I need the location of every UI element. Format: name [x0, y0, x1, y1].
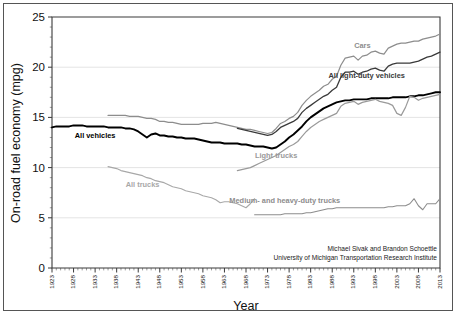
x-tick-label-1998: 1998: [371, 274, 378, 288]
axis-lines: [52, 17, 440, 268]
annotation-light-trucks: Light trucks: [255, 151, 297, 160]
x-tick-label-1928: 1928: [69, 274, 76, 288]
attribution-note: Michael Sivak and Brandon SchoettleUnive…: [274, 245, 438, 262]
x-tick-label-1963: 1963: [220, 274, 227, 288]
y-tick-label-0: 0: [39, 262, 45, 274]
x-tick-label-1973: 1973: [263, 274, 270, 288]
annotation-all-trucks: All trucks: [126, 180, 160, 189]
fuel-economy-line-chart: 0510152025 19231928193319381943194819531…: [0, 0, 456, 320]
x-tick-label-1953: 1953: [177, 274, 184, 288]
y-tick-label-20: 20: [32, 61, 45, 73]
x-tick-label-1968: 1968: [242, 274, 249, 288]
x-tick-label-2003: 2003: [393, 274, 400, 288]
x-tick-label-1958: 1958: [199, 274, 206, 288]
annotation-medium-and-heavy-duty-trucks: Medium- and heavy-duty trucks: [229, 196, 340, 205]
attribution-line-1: Michael Sivak and Brandon Schoettle: [327, 245, 437, 252]
y-axis-tick-labels: 0510152025: [32, 11, 45, 274]
x-axis-tick-labels: 1923192819331938194319481953195819631968…: [48, 274, 443, 288]
annotation-cars: Cars: [354, 41, 370, 50]
x-tick-label-1988: 1988: [328, 274, 335, 288]
annotation-all-light-duty-vehicles: All light-duty vehicles: [329, 71, 405, 80]
x-tick-label-1923: 1923: [48, 274, 55, 288]
y-tick-label-25: 25: [32, 11, 45, 23]
x-tick-label-2013: 2013: [436, 274, 443, 288]
y-tick-label-5: 5: [39, 212, 45, 224]
y-axis-title: On-road fuel economy (mpg): [9, 63, 23, 223]
series-line-cars: [108, 34, 440, 133]
series-line-all-light-duty-vehicles: [237, 52, 440, 135]
x-tick-label-1978: 1978: [285, 274, 292, 288]
x-tick-label-1948: 1948: [155, 274, 162, 288]
x-axis-title: Year: [233, 299, 258, 313]
x-tick-label-1993: 1993: [349, 274, 356, 288]
chart-figure: 0510152025 19231928193319381943194819531…: [0, 0, 456, 320]
data-series-lines: [52, 34, 440, 215]
x-tick-label-1933: 1933: [91, 274, 98, 288]
y-tick-label-10: 10: [32, 162, 45, 174]
y-tick-label-15: 15: [32, 111, 45, 123]
plot-frame: [52, 17, 440, 268]
x-tick-label-1943: 1943: [134, 274, 141, 288]
series-annotations: CarsAll light-duty vehiclesAll vehiclesA…: [75, 41, 405, 205]
x-tick-label-1983: 1983: [306, 274, 313, 288]
attribution-line-2: University of Michigan Transportation Re…: [274, 254, 438, 262]
annotation-all-vehicles: All vehicles: [75, 131, 116, 140]
x-tick-label-1938: 1938: [112, 274, 119, 288]
x-tick-label-2008: 2008: [414, 274, 421, 288]
